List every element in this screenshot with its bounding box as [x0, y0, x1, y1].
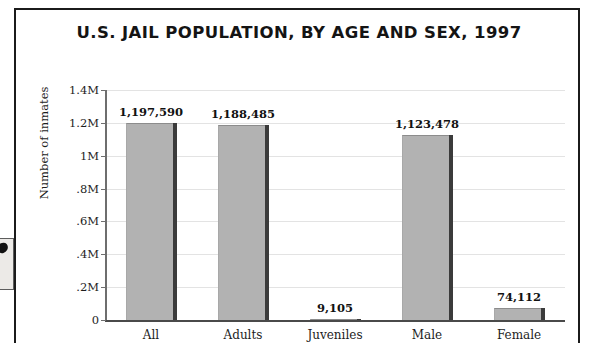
bar-value-label: 1,197,590	[119, 105, 183, 119]
y-tick-mark	[101, 156, 106, 157]
x-tick-label: Male	[412, 328, 442, 342]
bar-shadow	[541, 308, 545, 320]
y-tick-label: 1M	[80, 149, 99, 163]
chart-page: U.S. JAIL POPULATION, BY AGE AND SEX, 19…	[0, 0, 601, 343]
gridline	[105, 90, 565, 91]
bar-shadow	[357, 319, 361, 320]
y-tick-mark	[101, 90, 106, 91]
bar	[310, 319, 361, 320]
y-tick-mark	[101, 189, 106, 190]
bar-shadow	[449, 135, 453, 320]
chart-title: U.S. JAIL POPULATION, BY AGE AND SEX, 19…	[16, 23, 582, 42]
bar	[402, 135, 453, 320]
y-axis-title: Number of inmates	[37, 68, 51, 218]
y-tick-label: .2M	[76, 280, 99, 294]
y-tick-label: 1.2M	[69, 116, 99, 130]
plot-area: 0.2M.4M.6M.8M1M1.2M1.4M 1,197,5901,188,4…	[105, 90, 565, 320]
y-tick-label: .6M	[76, 214, 99, 228]
y-tick-label: .8M	[76, 182, 99, 196]
bar	[494, 308, 545, 320]
x-tick-label: Adults	[224, 328, 263, 342]
page-frame: U.S. JAIL POPULATION, BY AGE AND SEX, 19…	[14, 8, 580, 343]
x-tick-label: All	[143, 328, 159, 342]
y-tick-mark	[101, 123, 106, 124]
x-axis-line	[105, 320, 565, 322]
y-tick-label: 0	[92, 313, 99, 327]
scan-ink-blob-icon	[0, 242, 9, 255]
bar-shadow	[173, 123, 177, 320]
x-tick-label: Female	[497, 328, 541, 342]
y-tick-mark	[101, 254, 106, 255]
y-tick-label: 1.4M	[69, 83, 99, 97]
bar-value-label: 74,112	[497, 290, 541, 304]
bar-value-label: 9,105	[317, 301, 353, 315]
bar-value-label: 1,188,485	[211, 107, 275, 121]
y-tick-mark	[101, 221, 106, 222]
x-tick-label: Juveniles	[307, 328, 362, 342]
bar-value-label: 1,123,478	[395, 117, 459, 131]
y-tick-mark	[101, 320, 106, 321]
y-tick-label: .4M	[76, 247, 99, 261]
bar-shadow	[265, 125, 269, 320]
scan-edge-artifact	[0, 238, 14, 290]
bar	[126, 123, 177, 320]
bar	[218, 125, 269, 320]
y-tick-mark	[101, 287, 106, 288]
